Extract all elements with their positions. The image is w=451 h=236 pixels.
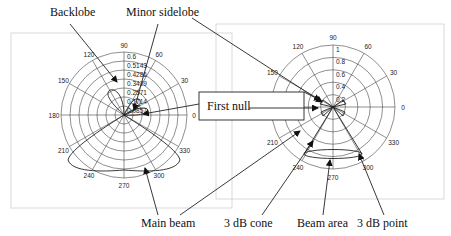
angle-tick-label: 60 — [364, 43, 372, 50]
antenna-pattern-diagram: 03060901201501802102402703003300.60.5143… — [0, 0, 451, 236]
radial-tick-label: 0.6 — [336, 71, 345, 78]
angle-tick-label: 90 — [120, 42, 128, 49]
grid-spoke — [333, 107, 387, 138]
angle-tick-label: 210 — [58, 147, 69, 154]
three-db-point-label: 3 dB point — [357, 216, 408, 230]
angle-tick-label: 90 — [329, 34, 337, 41]
cone-line-left — [304, 107, 333, 154]
angle-tick-label: 60 — [155, 51, 163, 58]
main-beam-arrow-right — [180, 131, 300, 215]
angle-tick-label: 180 — [49, 112, 60, 119]
cone-line-right — [333, 107, 362, 154]
beam-area-label: Beam area — [297, 216, 349, 230]
backlobe-label: Backlobe — [50, 5, 95, 19]
first-null-arrow-left — [143, 104, 199, 114]
angle-tick-label: 30 — [181, 77, 189, 84]
radial-tick-label: 0.3429 — [127, 80, 147, 87]
angle-tick-label: 330 — [388, 139, 399, 146]
minor-sidelobe-label: Minor sidelobe — [126, 5, 199, 19]
angle-tick-label: 30 — [390, 69, 398, 76]
angle-tick-label: 240 — [84, 172, 95, 179]
angle-tick-label: 0 — [192, 112, 196, 119]
three-db-cone-label: 3 dB cone — [224, 216, 273, 230]
radial-tick-label: 0.4 — [336, 83, 345, 90]
angle-tick-label: 270 — [119, 182, 130, 189]
main-beam-label: Main beam — [141, 216, 196, 230]
right-sidelobe-4 — [333, 107, 345, 116]
radial-tick-label: 0.6 — [127, 53, 136, 60]
first-null-label: First null — [207, 99, 251, 113]
radial-tick-label: 0.5143 — [127, 62, 147, 69]
angle-tick-label: 330 — [179, 147, 190, 154]
angle-tick-label: 270 — [328, 174, 339, 181]
angle-tick-label: 150 — [58, 77, 69, 84]
radial-tick-label: 0.2571 — [127, 89, 147, 96]
radial-tick-label: 0.8 — [336, 58, 345, 65]
radial-tick-label: 1 — [336, 46, 340, 53]
minor-sidelobe-arrow-right — [192, 18, 322, 102]
angle-tick-label: 210 — [267, 139, 278, 146]
angle-tick-label: 120 — [293, 43, 304, 50]
angle-tick-label: 300 — [154, 172, 165, 179]
angle-tick-label: 0 — [401, 104, 405, 111]
right-sidelobe-3 — [321, 107, 333, 116]
